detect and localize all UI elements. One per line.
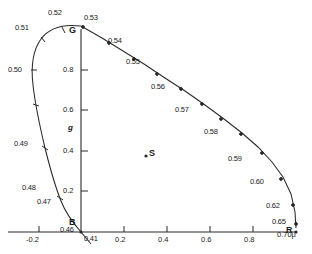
x-extra-label-0-46: 0.46 — [60, 226, 74, 234]
wavelength-label-0-57: 0.57 — [175, 106, 189, 114]
primary-label-b: B — [69, 218, 76, 227]
wavelength-label-0-48: 0.48 — [22, 184, 36, 192]
wavelength-label-0-54: 0.54 — [108, 37, 122, 45]
y-tick-label-0-4: 0.4 — [63, 147, 73, 155]
wavelength-label-0-49: 0.49 — [14, 140, 28, 148]
y-tick-label-0-8: 0.8 — [63, 66, 73, 74]
y-tick-label-0-2: 0.2 — [63, 187, 73, 195]
wavelength-label-0-62: 0.62 — [266, 202, 280, 210]
chromaticity-diagram: 0.41 0.46 0.47 0.48 0.49 0.50 0.51 0.52 … — [0, 0, 312, 254]
x-tick-label-0-6: 0.6 — [201, 236, 211, 244]
x-tick-label-0-2: 0.2 — [115, 236, 125, 244]
y-tick-marks — [81, 70, 88, 191]
wavelength-label-0-60: 0.60 — [250, 178, 264, 186]
spectral-line-green-red — [81, 26, 296, 228]
x-tick-label-0-4: 0.4 — [158, 236, 168, 244]
wavelength-label-0-53: 0.53 — [84, 14, 98, 22]
wavelength-label-0-51: 0.51 — [15, 24, 29, 32]
primary-label-r: R — [286, 226, 293, 235]
x-tick-label--0-2: -0.2 — [26, 236, 39, 244]
wavelength-label-0-58: 0.58 — [204, 128, 218, 136]
x-tick-label-0-8: 0.8 — [244, 236, 254, 244]
wavelength-label-0-52: 0.52 — [48, 9, 62, 17]
wavelength-label-0-41: 0.41 — [84, 235, 98, 243]
wavelength-label-0-65: 0.65 — [272, 218, 286, 226]
wavelength-label-0-47: 0.47 — [37, 198, 51, 206]
wavelength-label-0-50: 0.50 — [8, 66, 22, 74]
white-point-marker — [144, 154, 147, 157]
wavelength-label-0-56: 0.56 — [151, 83, 165, 91]
primary-label-g: G — [69, 26, 76, 35]
y-tick-label-0-6: 0.6 — [63, 106, 73, 114]
wavelength-label-0-59: 0.59 — [228, 155, 242, 163]
wavelength-label-0-55: 0.55 — [126, 58, 140, 66]
white-point-label-s: S — [149, 149, 155, 158]
diagram-canvas — [0, 0, 312, 254]
y-axis-title: g — [68, 124, 73, 132]
